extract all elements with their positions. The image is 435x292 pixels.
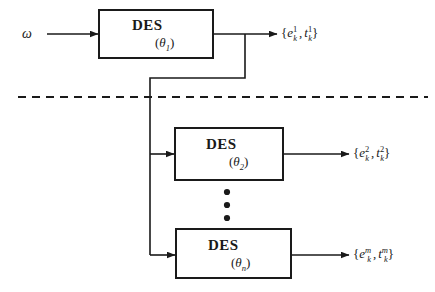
brace-close: } — [388, 246, 394, 261]
block-des-1-param: (θ1) — [155, 36, 174, 52]
block-diagram: ω DES (θ1) {e1k,t1k} DES (θ2) {e2k,t2k} … — [0, 0, 435, 292]
paren-close: ) — [170, 35, 174, 50]
ellipsis-dot — [224, 202, 230, 208]
output-label-des-n: {emk,tmk} — [353, 247, 394, 260]
paren-close: ) — [244, 154, 248, 169]
block-des-n-title: DES — [208, 238, 239, 253]
block-des-n-param: (θn) — [231, 256, 250, 272]
output-label-des-2: {e2k,t2k} — [353, 146, 390, 159]
brace-close: } — [384, 145, 390, 160]
block-des-2-param: (θ2) — [229, 155, 248, 171]
brace-close: } — [312, 25, 318, 40]
paren-close: ) — [246, 255, 250, 270]
block-des-1-title: DES — [132, 18, 163, 33]
output-label-des-1: {e1k,t1k} — [281, 26, 318, 39]
ellipsis-dot — [224, 189, 230, 195]
ellipsis-dot — [224, 215, 230, 221]
input-label-omega: ω — [22, 27, 32, 41]
block-des-2-title: DES — [206, 137, 237, 152]
